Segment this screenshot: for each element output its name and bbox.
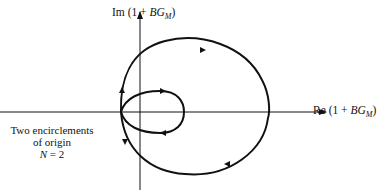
outer-loop-curve xyxy=(121,38,269,174)
arrow-icon xyxy=(200,47,206,53)
encirclement-annotation: Two encirclements of origin N = 2 xyxy=(4,124,100,160)
arrow-icon xyxy=(119,87,125,93)
real-label-prefix: Re (1 + xyxy=(313,104,350,116)
annotation-line-2: of origin xyxy=(4,136,100,148)
annotation-n-value: = 2 xyxy=(47,148,64,160)
arrow-icon xyxy=(160,88,166,94)
annotation-line-1: Two encirclements xyxy=(4,124,100,136)
imag-label-suffix: ) xyxy=(171,6,175,18)
real-label-var: BG xyxy=(350,104,365,116)
imag-label-var: BG xyxy=(149,6,164,18)
nyquist-diagram xyxy=(0,0,379,196)
arrow-icon xyxy=(122,139,128,145)
annotation-line-3: N = 2 xyxy=(4,148,100,160)
real-axis-label: Re (1 + BGM) xyxy=(313,104,376,119)
annotation-n-var: N xyxy=(40,148,47,160)
arrow-icon xyxy=(224,161,230,167)
real-label-suffix: ) xyxy=(372,104,376,116)
arrow-icon xyxy=(160,130,166,136)
imag-label-prefix: Im (1 + xyxy=(112,6,149,18)
imaginary-axis-label: Im (1 + BGM) xyxy=(112,6,175,21)
